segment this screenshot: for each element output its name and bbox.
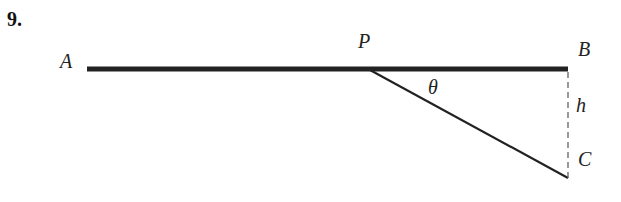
segment-pc <box>370 70 568 178</box>
label-b: B <box>578 38 590 61</box>
label-a: A <box>60 50 72 73</box>
label-p: P <box>358 30 370 53</box>
label-c: C <box>578 148 591 171</box>
geometry-diagram <box>0 0 621 202</box>
label-theta: θ <box>428 76 438 99</box>
label-h: h <box>576 94 586 117</box>
